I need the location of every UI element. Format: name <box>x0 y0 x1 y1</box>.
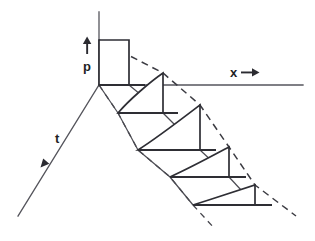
connector-2-3 <box>138 150 170 177</box>
pulse-4-waveform <box>193 185 255 205</box>
t-axis-label: t <box>55 131 60 146</box>
connector-1-2 <box>118 113 138 150</box>
arrow-right-icon <box>241 68 260 76</box>
pulse-propagation-diagram: p x t <box>0 0 315 241</box>
pulse-0-rectangle <box>99 40 129 85</box>
x-axis-label-group: x <box>230 65 260 80</box>
t-axis-line <box>18 85 99 216</box>
arrow-up-icon <box>83 37 91 55</box>
pulse-0-group <box>99 40 145 85</box>
p-axis-label: p <box>83 59 91 74</box>
p-axis-label-group: p <box>83 37 91 75</box>
t-axis-label-group: t <box>41 131 61 168</box>
connector-0-1 <box>99 85 118 113</box>
pulse-3-waveform <box>170 147 229 177</box>
x-axis-label: x <box>230 65 238 80</box>
pulse-4-group <box>193 185 272 205</box>
pulse-3-group <box>170 147 246 177</box>
figure-container: p x t <box>0 0 315 241</box>
connector-3-4 <box>170 177 193 205</box>
